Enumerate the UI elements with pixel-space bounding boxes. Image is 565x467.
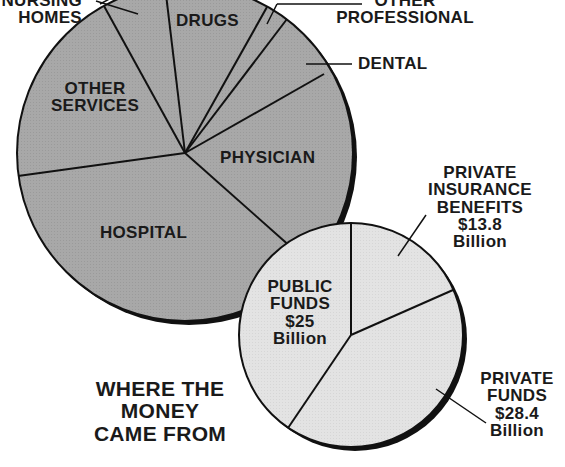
label-line: PRIVATE (420, 164, 540, 181)
label-nursing-homes: NURSING HOMES (0, 0, 82, 27)
label-dental: DENTAL (358, 55, 427, 72)
label-hospital: HOSPITAL (100, 224, 187, 241)
label-line: PROFESSIONAL (325, 9, 485, 26)
label-line: INSURANCE (420, 181, 540, 198)
title-line: WHERE THE (78, 378, 242, 400)
label-line: $28.4 (468, 405, 565, 422)
label-line: DRUGS (176, 12, 239, 29)
label-line: FUNDS (258, 295, 342, 312)
label-private-funds: PRIVATE FUNDS $28.4 Billion (468, 370, 565, 439)
label-line: SERVICES (40, 97, 150, 114)
label-line: Billion (468, 422, 565, 439)
label-line: $13.8 (420, 216, 540, 233)
title-line: MONEY (78, 400, 242, 422)
label-line: $25 (258, 313, 342, 330)
label-public-funds: PUBLIC FUNDS $25 Billion (258, 278, 342, 347)
label-line: HOSPITAL (100, 224, 187, 241)
label-other-professional: OTHER PROFESSIONAL (325, 0, 485, 27)
label-line: OTHER (40, 80, 150, 97)
label-line: FUNDS (468, 387, 565, 404)
label-line: HOMES (0, 9, 82, 26)
label-line: PHYSICIAN (220, 149, 315, 166)
label-physician: PHYSICIAN (220, 149, 315, 166)
label-private-insurance: PRIVATE INSURANCE BENEFITS $13.8 Billion (420, 164, 540, 251)
label-drugs: DRUGS (176, 12, 239, 29)
label-line: PRIVATE (468, 370, 565, 387)
title-line: CAME FROM (78, 423, 242, 445)
label-line: Billion (420, 233, 540, 250)
label-line: PUBLIC (258, 278, 342, 295)
funding-pie-title: WHERE THE MONEY CAME FROM (78, 378, 242, 445)
label-line: BENEFITS (420, 199, 540, 216)
label-line: DENTAL (358, 55, 427, 72)
label-line: Billion (258, 330, 342, 347)
label-other-services: OTHER SERVICES (40, 80, 150, 115)
